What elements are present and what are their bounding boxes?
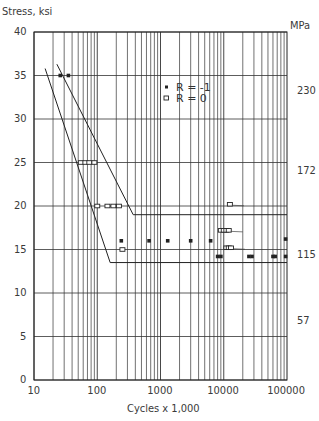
data-point-filled — [209, 239, 213, 243]
data-point-filled — [284, 255, 288, 259]
data-point-open — [92, 161, 97, 165]
y-tick-label: 25 — [14, 157, 27, 169]
runout-arrow — [231, 231, 243, 232]
legend-label: R = 0 — [176, 92, 207, 105]
y-tick-label-right: 115 — [297, 249, 316, 261]
x-axis-label: Cycles x 1,000 — [127, 403, 200, 415]
legend-marker-open — [164, 96, 169, 100]
y-tick-label: 0 — [20, 374, 26, 386]
runout-arrow — [233, 249, 245, 250]
data-point-filled — [147, 239, 151, 243]
data-point-filled — [247, 255, 251, 259]
x-tick-label: 1000 — [147, 385, 172, 397]
runout-arrow — [232, 205, 244, 206]
x-tick-label: 100 — [87, 385, 106, 397]
data-point-filled — [119, 239, 123, 243]
data-point-open — [226, 229, 231, 233]
x-tick-label: 10000 — [207, 385, 238, 397]
fatigue-chart: R = -1R = 0 — [0, 0, 319, 421]
data-point-open — [120, 248, 125, 252]
data-point-open — [116, 204, 121, 208]
x-tick-label: 10 — [27, 385, 40, 397]
y-tick-label: 35 — [14, 70, 27, 82]
data-point-filled — [166, 239, 170, 243]
data-point-filled — [67, 74, 71, 78]
data-point-filled — [58, 74, 62, 78]
y-axis-label: Stress, ksi — [2, 6, 52, 18]
y-tick-label-right: 230 — [297, 85, 316, 97]
data-point-open — [105, 204, 110, 208]
data-point-filled — [284, 237, 288, 241]
legend-marker-filled — [165, 86, 168, 89]
y-tick-label-right: 57 — [297, 315, 310, 327]
y-tick-label-right: 172 — [297, 165, 316, 177]
data-point-filled — [250, 255, 254, 259]
data-point-filled — [219, 255, 223, 259]
y-tick-label: 15 — [14, 244, 27, 256]
data-point-open — [87, 161, 92, 165]
y-tick-label: 5 — [20, 331, 26, 343]
data-point-filled — [216, 255, 220, 259]
y-tick-label: 20 — [14, 200, 27, 212]
data-point-filled — [189, 239, 193, 243]
data-point-open — [228, 246, 233, 250]
y-tick-label: 40 — [14, 26, 27, 38]
data-point-open — [227, 202, 232, 206]
y-axis-right-label: MPa — [290, 20, 310, 32]
x-tick-label: 100000 — [267, 385, 305, 397]
data-point-open — [95, 204, 100, 208]
y-tick-label: 10 — [14, 287, 27, 299]
data-point-filled — [273, 255, 277, 259]
data-point-open — [111, 204, 116, 208]
y-tick-label: 30 — [14, 113, 27, 125]
